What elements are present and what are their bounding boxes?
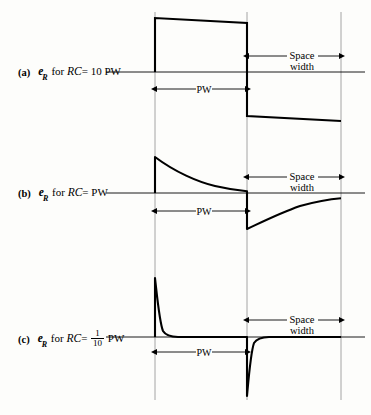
panel-b-expression: eR for RC= PW	[39, 186, 108, 201]
rc-waveform-figure: PW Space width PW Space width	[0, 0, 371, 415]
dimension-pw-c-label: PW	[197, 347, 213, 358]
panel-c: PW Space width	[106, 278, 365, 396]
panel-b-unit: PW	[91, 186, 108, 198]
dimension-space-width-c: Space width	[249, 314, 339, 336]
panel-a: PW Space width	[106, 18, 365, 121]
waveform-c	[155, 278, 341, 396]
panel-b-label: (b) eR for RC= PW	[18, 186, 108, 201]
panel-c-unit: PW	[108, 332, 125, 344]
panel-c-fraction: 1 10	[91, 329, 104, 348]
panel-c-subscript: R	[42, 340, 47, 349]
panel-a-equals: =	[82, 65, 88, 77]
dimension-space-width-b: Space width	[249, 171, 339, 193]
panel-b-subscript: R	[43, 194, 48, 203]
panel-c-equals: =	[81, 332, 87, 344]
panel-b-equals: =	[82, 186, 88, 198]
space-width-c-line1: Space	[289, 314, 314, 325]
dimension-pw-b: PW	[157, 206, 245, 217]
panel-a-unit: PW	[104, 65, 121, 77]
space-width-a-line2: width	[290, 61, 315, 72]
dimension-pw-a-label: PW	[197, 84, 213, 95]
space-width-c-line2: width	[290, 325, 315, 336]
panel-b-param: RC	[68, 186, 83, 198]
space-width-a-line1: Space	[289, 50, 314, 61]
panel-b: PW Space width	[106, 157, 365, 229]
panel-a-expression: eR for RC= 10 PW	[38, 65, 121, 80]
dimension-space-width-a: Space width	[249, 50, 339, 72]
panel-b-for: for	[52, 186, 65, 198]
panel-c-fraction-numerator: 1	[93, 329, 102, 338]
panel-a-for: for	[51, 65, 64, 77]
space-width-b-line2: width	[290, 182, 315, 193]
panel-c-param: RC	[66, 332, 81, 344]
panel-b-tag: (b)	[18, 188, 31, 199]
panel-a-tag: (a)	[18, 67, 30, 78]
panel-c-expression: eR for RC= 1 10 PW	[38, 330, 125, 349]
panel-a-subscript: R	[42, 73, 47, 82]
panel-a-param: RC	[67, 65, 82, 77]
panel-c-label: (c) eR for RC= 1 10 PW	[18, 330, 124, 349]
panel-c-fraction-denominator: 10	[91, 339, 104, 348]
space-width-b-line1: Space	[289, 171, 314, 182]
panel-a-label: (a) eR for RC= 10 PW	[18, 65, 121, 80]
panel-c-tag: (c)	[18, 334, 30, 345]
panel-a-value: 10	[91, 65, 102, 77]
dimension-pw-b-label: PW	[197, 206, 213, 217]
panel-c-for: for	[51, 332, 64, 344]
dimension-pw-c: PW	[157, 347, 245, 358]
dimension-pw-a: PW	[157, 84, 245, 95]
